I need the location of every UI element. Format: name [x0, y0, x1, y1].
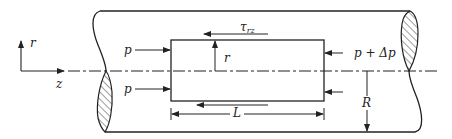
- right-pressure-arrows: [325, 53, 343, 92]
- shear-stress-symbol: τ: [240, 20, 247, 34]
- axis-z-label: z: [56, 78, 62, 90]
- shear-stress-label: τrz: [240, 21, 255, 35]
- coordinate-axes: [21, 41, 64, 71]
- shear-stress-arrows: [197, 34, 268, 105]
- pressure-left-bottom-label: p: [124, 83, 132, 95]
- pressure-left-top-label: p: [124, 44, 132, 56]
- shear-stress-subscript: rz: [247, 26, 255, 35]
- pipe-flow-diagram: [0, 0, 452, 139]
- pressure-right-label: p + Δp: [354, 47, 396, 59]
- left-pressure-arrows: [135, 50, 170, 89]
- length-label: L: [233, 107, 241, 119]
- left-section-hatch: [97, 71, 112, 132]
- element-radius-label: r: [224, 52, 230, 64]
- length-dimension: [171, 108, 324, 120]
- pipe-radius-label: R: [362, 97, 371, 109]
- axis-r-label: r: [30, 37, 36, 49]
- right-section-hatch: [401, 11, 418, 71]
